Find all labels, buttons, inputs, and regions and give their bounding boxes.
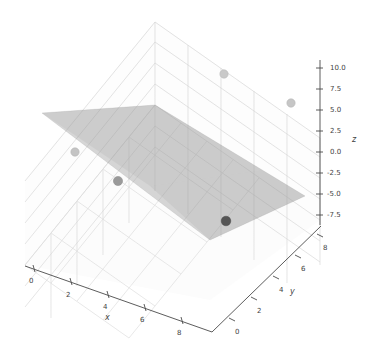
z-axis-label: z: [352, 136, 356, 144]
z-tick-label: 2.5: [330, 127, 341, 135]
z-tick-label: 10.0: [330, 64, 346, 72]
x-tick-label: 4: [103, 303, 107, 311]
y-tick-label: 8: [323, 244, 327, 252]
axes-3d[interactable]: [0, 0, 374, 353]
z-tick-label: 7.5: [330, 85, 341, 93]
z-tick-label: 5.0: [330, 106, 341, 114]
scatter-point[interactable]: [220, 70, 228, 78]
scatter-point[interactable]: [287, 99, 295, 107]
x-axis-label: x: [105, 314, 110, 322]
y-tick-label: 2: [257, 307, 261, 315]
scatter-point[interactable]: [71, 148, 79, 156]
x-tick-label: 8: [177, 329, 181, 337]
x-tick-label: 0: [29, 277, 33, 285]
y-tick-label: 6: [301, 265, 305, 273]
y-tick-label: 4: [279, 286, 283, 294]
y-axis-label: y: [290, 288, 295, 296]
x-tick-label: 6: [140, 316, 144, 324]
scatter-point[interactable]: [113, 176, 122, 185]
y-tick-label: 0: [235, 328, 239, 336]
z-tick-label: -5.0: [327, 190, 341, 198]
scatter-point[interactable]: [221, 216, 231, 226]
figure-canvas: 10.0 7.5 5.0 2.5 0.0 -2.5 -5.0 -7.5 0 2 …: [0, 0, 374, 353]
z-tick-label: -2.5: [327, 169, 341, 177]
z-tick-label: 0.0: [330, 148, 341, 156]
z-tick-label: -7.5: [327, 211, 341, 219]
x-tick-label: 2: [66, 291, 70, 299]
